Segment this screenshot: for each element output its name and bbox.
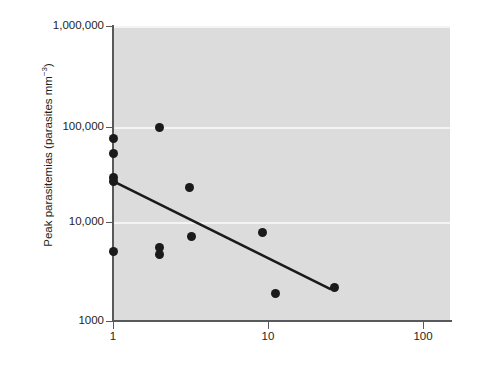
trendline [113,181,331,289]
scatter-chart-figure: 1,000,000 100,000 10,000 1000 1 10 100 P… [0,0,477,366]
trendline-svg [0,0,477,366]
